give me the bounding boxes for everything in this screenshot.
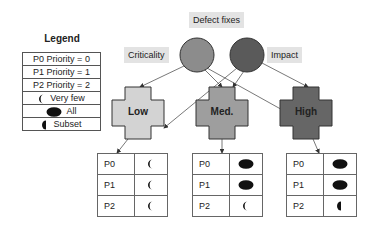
legend-text: All [66, 106, 76, 116]
root-label: Defect fixes [189, 12, 244, 28]
legend-text: P1 Priority = 1 [33, 67, 90, 77]
all-icon [238, 180, 254, 190]
priority-row: P1 [287, 175, 357, 196]
priority-value [135, 154, 168, 175]
priority-label: P2 [193, 196, 230, 217]
legend-cell: P0 Priority = 0 [23, 53, 101, 66]
legend-text: Very few [50, 93, 85, 103]
legend-row: Very few [23, 92, 101, 105]
factor-node-0 [180, 38, 214, 72]
all-icon [332, 159, 348, 169]
legend-row: All [23, 105, 101, 118]
legend-cell: P2 Priority = 2 [23, 79, 101, 92]
very-few-icon [147, 159, 155, 169]
legend-cell: Very few [23, 92, 101, 105]
all-icon [238, 159, 254, 169]
edge-arrow [205, 70, 222, 87]
very-few-icon [242, 201, 250, 211]
level-high-label: High [280, 106, 332, 117]
very-few-icon [147, 180, 155, 190]
legend-title: Legend [22, 33, 102, 44]
edge-arrow [140, 66, 184, 87]
level-med-label: Med. [196, 106, 248, 117]
edge-arrow [262, 63, 308, 87]
priority-table-high: P0P1P2 [286, 153, 357, 217]
priority-value [230, 196, 263, 217]
legend-text: Subset [53, 119, 81, 129]
priority-value [324, 154, 357, 175]
priority-value [230, 154, 263, 175]
priority-label: P0 [193, 154, 230, 175]
legend-row: P1 Priority = 1 [23, 66, 101, 79]
level-low-label: Low [112, 106, 164, 117]
all-icon [332, 180, 348, 190]
priority-label: P1 [98, 175, 135, 196]
priority-row: P2 [98, 196, 168, 217]
priority-label: P2 [98, 196, 135, 217]
priority-row: P2 [193, 196, 263, 217]
legend-row: P2 Priority = 2 [23, 79, 101, 92]
priority-value [135, 196, 168, 217]
legend-table: P0 Priority = 0P1 Priority = 1P2 Priorit… [22, 52, 101, 131]
very-few-icon [147, 201, 155, 211]
priority-row: P0 [287, 154, 357, 175]
factor-node-1 [230, 38, 264, 72]
priority-label: P0 [287, 154, 324, 175]
priority-label: P1 [193, 175, 230, 196]
priority-label: P1 [287, 175, 324, 196]
edge-arrow [313, 139, 319, 153]
subset-icon [336, 201, 344, 211]
priority-table-low: P0P1P2 [97, 153, 168, 217]
priority-value [230, 175, 263, 196]
criticality-label: Criticality [124, 47, 169, 63]
legend-cell: Subset [23, 118, 101, 131]
legend-cell: P1 Priority = 1 [23, 66, 101, 79]
priority-table-med: P0P1P2 [192, 153, 263, 217]
legend-row: Subset [23, 118, 101, 131]
impact-label: Impact [267, 47, 302, 63]
priority-row: P0 [98, 154, 168, 175]
edge-arrow [233, 71, 244, 87]
priority-row: P2 [287, 196, 357, 217]
priority-label: P0 [98, 154, 135, 175]
subset-icon [41, 120, 49, 130]
priority-row: P0 [193, 154, 263, 175]
legend-text: P0 Priority = 0 [33, 54, 90, 64]
priority-value [324, 175, 357, 196]
very-few-icon [38, 94, 46, 104]
legend-text: P2 Priority = 2 [33, 80, 90, 90]
legend-row: P0 Priority = 0 [23, 53, 101, 66]
edge-arrow [117, 139, 128, 153]
priority-value [324, 196, 357, 217]
all-icon [46, 107, 62, 117]
priority-row: P1 [193, 175, 263, 196]
priority-label: P2 [287, 196, 324, 217]
legend-cell: All [23, 105, 101, 118]
priority-row: P1 [98, 175, 168, 196]
priority-value [135, 175, 168, 196]
